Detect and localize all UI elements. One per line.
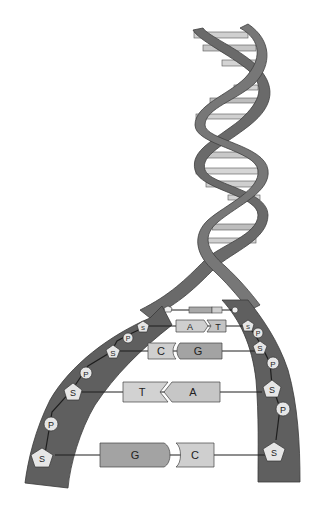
svg-text:S: S [246,324,250,330]
svg-text:S: S [70,388,76,398]
svg-text:P: P [126,335,131,342]
svg-text:S: S [141,325,145,331]
phosphate-node: P [253,328,263,338]
base-label-a: A [189,386,197,398]
phosphate-node: P [267,357,279,369]
base-label-t: T [215,322,221,332]
svg-text:P: P [256,330,261,337]
double-helix-upper [140,24,270,318]
svg-text:S: S [39,454,45,464]
base-label-c: C [191,449,199,461]
base-label-c: C [157,345,165,357]
phosphate-node: P [44,417,58,431]
svg-text:P: P [270,360,275,369]
svg-text:S: S [271,448,277,458]
base-label-g: G [194,345,203,357]
svg-text:S: S [257,344,262,353]
svg-text:S: S [269,385,275,395]
base-label-g: G [131,449,140,461]
phosphate-node: P [276,402,290,416]
phosphate-node: P [123,333,133,343]
base-label-a: A [187,322,193,332]
svg-text:P: P [83,370,88,379]
svg-text:P: P [48,420,54,430]
base-pair-5: G C [55,443,265,467]
phosphate-node: P [80,367,92,379]
svg-text:P: P [280,405,286,415]
base-label-t: T [139,386,146,398]
dna-diagram: A T C G T A G C S P S [0,0,314,507]
svg-text:S: S [110,349,115,358]
base-pair-1 [164,306,238,313]
